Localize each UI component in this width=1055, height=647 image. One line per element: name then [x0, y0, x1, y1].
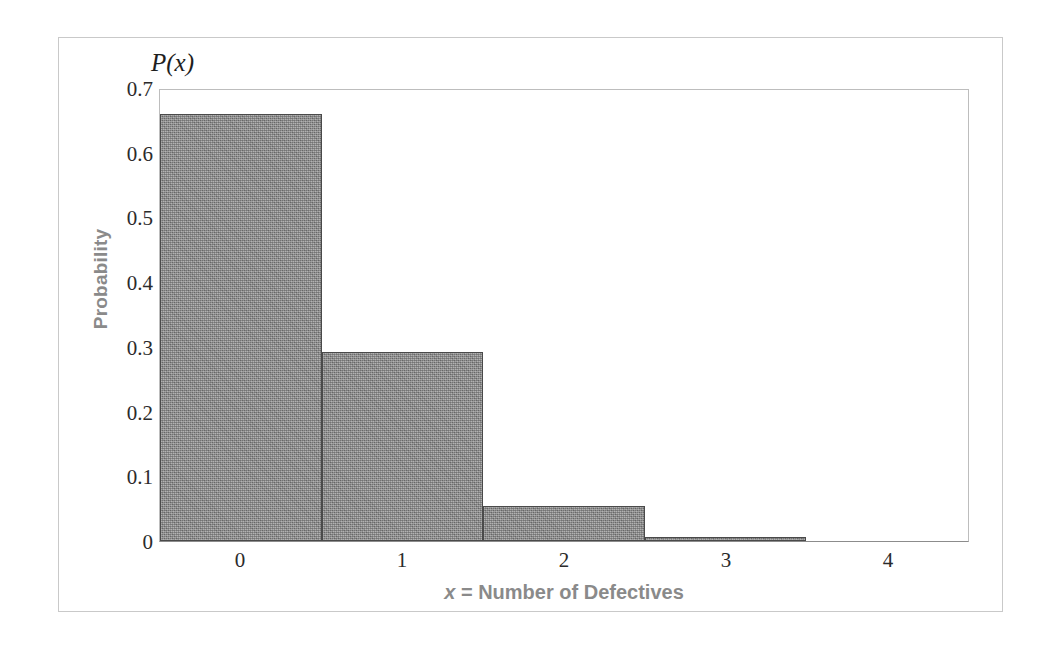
plot-area	[159, 89, 969, 542]
y-tick-label: 0.5	[93, 206, 153, 231]
bar-slot	[483, 90, 645, 541]
x-axis-title-rest: = Number of Defectives	[455, 581, 683, 603]
bar-x0	[160, 114, 322, 541]
bar-x3	[645, 537, 807, 541]
y-tick-label: 0.3	[93, 335, 153, 360]
y-axis-tick-labels: 0.7 0.6 0.5 0.4 0.3 0.2 0.1 0	[81, 89, 153, 542]
y-tick-label: 0.2	[93, 400, 153, 425]
y-tick-label: 0	[93, 530, 153, 555]
x-axis-tick-labels: 0 1 2 3 4	[159, 548, 969, 573]
x-tick-label: 3	[645, 548, 807, 573]
px-annotation-label: P(x)	[151, 49, 194, 77]
figure-frame: P(x) Probability 0.7 0.6 0.5 0.4 0.3 0.2…	[58, 37, 1003, 612]
bar-x2	[483, 506, 645, 541]
x-axis-title-variable: x	[444, 581, 455, 603]
y-tick-label: 0.1	[93, 465, 153, 490]
y-tick-label: 0.4	[93, 271, 153, 296]
bar-slot	[322, 90, 484, 541]
x-tick-label: 1	[321, 548, 483, 573]
bar-slot	[160, 90, 322, 541]
bar-slot	[645, 90, 807, 541]
x-tick-label: 2	[483, 548, 645, 573]
x-tick-label: 0	[159, 548, 321, 573]
x-tick-label: 4	[807, 548, 969, 573]
y-tick-label: 0.6	[93, 141, 153, 166]
bar-series	[160, 90, 968, 541]
bar-x1	[322, 352, 484, 541]
x-axis-title: x = Number of Defectives	[159, 581, 969, 604]
bar-slot	[806, 90, 968, 541]
y-tick-label: 0.7	[93, 77, 153, 102]
